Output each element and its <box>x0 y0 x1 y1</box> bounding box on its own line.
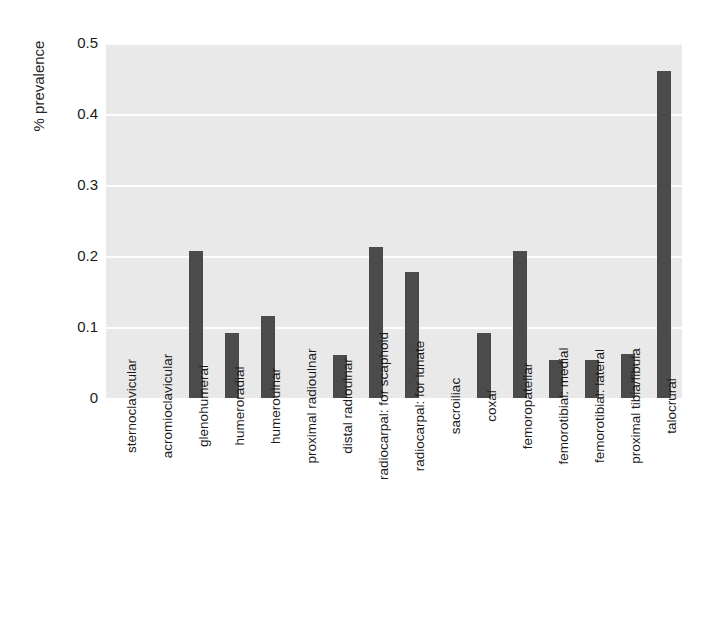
x-tick-label: coxal <box>484 390 499 422</box>
x-tick-slot: sternoclavicular <box>106 398 142 621</box>
x-tick-slot: humeroradial <box>214 398 250 621</box>
x-tick-slot: proximal tibia/fibula <box>610 398 646 621</box>
x-tick-slot: sacroiliac <box>430 398 466 621</box>
x-tick-slot: distal radioulnar <box>322 398 358 621</box>
x-tick-label: humeroulnar <box>268 368 283 444</box>
y-tick-label: 0.5 <box>54 35 98 51</box>
x-axis-tick-labels: sternoclavicularacromioclavicularglenohu… <box>106 398 682 621</box>
gridline <box>106 114 682 116</box>
x-tick-slot: femorotibial: lateral <box>574 398 610 621</box>
x-tick-label: radiocarpal: for scaphoid <box>376 332 391 480</box>
x-tick-label: radiocarpal: for lunate <box>412 341 427 472</box>
x-tick-label: proximal tibia/fibula <box>628 348 643 464</box>
x-tick-label: femoropatellar <box>520 363 535 449</box>
y-tick-label: 0 <box>54 390 98 406</box>
x-tick-label: sternoclavicular <box>124 359 139 453</box>
x-tick-slot: radiocarpal: for scaphoid <box>358 398 394 621</box>
bar[interactable] <box>657 71 671 398</box>
y-tick-label: 0.4 <box>54 106 98 122</box>
x-tick-slot: glenohumeral <box>178 398 214 621</box>
x-tick-label: distal radioulnar <box>340 358 355 453</box>
y-axis-title: % prevalence <box>26 6 52 166</box>
gridline <box>106 43 682 45</box>
bar-chart-figure: % prevalence 00.10.20.30.40.5 sternoclav… <box>0 0 701 621</box>
x-tick-slot: radiocarpal: for lunate <box>394 398 430 621</box>
x-tick-slot: femorotibial: medial <box>538 398 574 621</box>
y-tick-label: 0.2 <box>54 248 98 264</box>
x-tick-label: femorotibial: lateral <box>592 349 607 463</box>
plot-area <box>106 43 682 398</box>
x-tick-slot: femoropatellar <box>502 398 538 621</box>
x-tick-label: proximal radioulnar <box>304 349 319 464</box>
x-tick-slot: humeroulnar <box>250 398 286 621</box>
x-tick-label: humeroradial <box>232 367 247 446</box>
y-tick-label: 0.3 <box>54 177 98 193</box>
x-tick-label: acromioclavicular <box>160 354 175 458</box>
x-tick-slot: talocrural <box>646 398 682 621</box>
x-tick-label: sacroiliac <box>448 378 463 434</box>
bar[interactable] <box>477 333 491 398</box>
x-tick-slot: proximal radioulnar <box>286 398 322 621</box>
x-tick-slot: coxal <box>466 398 502 621</box>
x-tick-slot: acromioclavicular <box>142 398 178 621</box>
y-tick-label: 0.1 <box>54 319 98 335</box>
gridline <box>106 185 682 187</box>
x-tick-label: talocrural <box>664 378 679 434</box>
y-axis-tick-labels: 00.10.20.30.40.5 <box>52 0 98 621</box>
x-tick-label: glenohumeral <box>196 365 211 447</box>
x-tick-label: femorotibial: medial <box>556 347 571 464</box>
